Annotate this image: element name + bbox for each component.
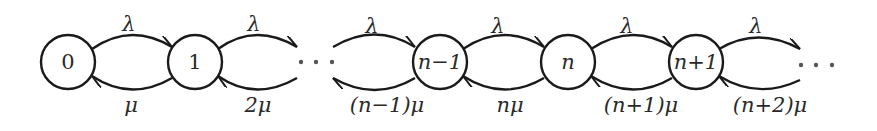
- state-label: n−1: [418, 50, 462, 74]
- state-n: n: [541, 35, 595, 89]
- backward-rate-label: (n−1)μ: [350, 93, 425, 117]
- forward-rate-label: λ: [748, 14, 762, 38]
- edge-n-n-1: [463, 76, 544, 90]
- state-0: 0: [41, 35, 95, 89]
- state-label: n: [561, 50, 575, 74]
- edge-dots-1: [218, 76, 297, 90]
- backward-rate-label: nμ: [496, 93, 523, 117]
- state-n-minus-1: n−1: [413, 35, 467, 89]
- edge-n+1-dots: [719, 38, 800, 50]
- state-n-plus-1: n+1: [669, 35, 723, 89]
- ellipsis-end: [799, 63, 834, 67]
- backward-rate-label: (n+1)μ: [604, 93, 679, 117]
- edge-n-1-dots: [333, 78, 415, 90]
- edge-1-dots: [218, 35, 297, 49]
- state-label: 1: [188, 50, 201, 74]
- birth-death-diagram: 0 1 n−1 n n+1 λ λ λ λ λ λ μ 2μ (n−1)μ nμ…: [0, 0, 877, 131]
- forward-rate-label: λ: [121, 12, 135, 36]
- forward-rate-label: λ: [619, 14, 633, 38]
- ellipsis-middle: [299, 60, 334, 64]
- edge-n+1-n: [591, 76, 672, 90]
- backward-rate-label: (n+2)μ: [733, 93, 808, 117]
- backward-rate-label: μ: [124, 93, 138, 117]
- edge-1-0: [92, 76, 172, 90]
- state-1: 1: [168, 35, 222, 89]
- edge-dots-n+1: [719, 76, 800, 89]
- state-label: 0: [61, 50, 74, 74]
- forward-rate-label: λ: [364, 14, 378, 38]
- edge-0-1: [92, 35, 172, 49]
- forward-rate-label: λ: [490, 14, 504, 38]
- backward-rate-label: 2μ: [243, 93, 271, 117]
- state-label: n+1: [674, 50, 718, 74]
- forward-rate-label: λ: [246, 12, 260, 36]
